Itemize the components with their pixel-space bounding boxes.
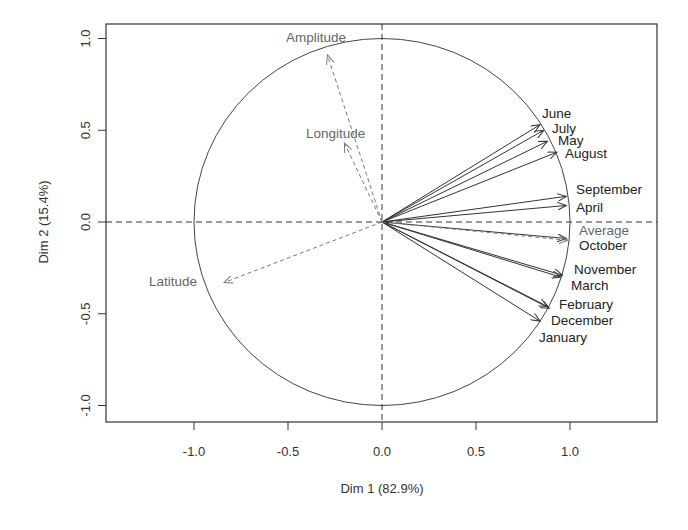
- y-tick-label: 0.0: [78, 213, 93, 231]
- variable-arrow-august: [382, 152, 557, 222]
- variable-arrow-july: [382, 130, 544, 222]
- variable-label-longitude: Longitude: [306, 126, 365, 141]
- supplementary-arrow-latitude: [224, 222, 382, 283]
- y-axis: -1.0-0.50.00.51.0: [78, 29, 106, 416]
- supplementary-arrow-longitude: [344, 143, 382, 222]
- x-tick-label: -0.5: [277, 444, 299, 459]
- x-tick-label: 1.0: [561, 444, 579, 459]
- variable-label-latitude: Latitude: [149, 274, 197, 289]
- variable-label-march: March: [571, 278, 609, 293]
- y-tick-label: 0.5: [78, 121, 93, 139]
- variable-arrow-september: [382, 196, 566, 222]
- variable-label-october: October: [579, 238, 628, 253]
- x-tick-label: -1.0: [183, 444, 205, 459]
- supplementary-arrow-average: [382, 222, 568, 240]
- variable-label-june: June: [542, 106, 571, 121]
- x-axis: -1.0-0.50.00.51.0: [183, 422, 579, 459]
- y-axis-title: Dim 2 (15.4%): [36, 180, 51, 263]
- variable-arrow-january: [382, 222, 540, 321]
- variable-arrow-june: [382, 125, 540, 222]
- variable-label-amplitude: Amplitude: [286, 30, 346, 45]
- x-tick-label: 0.5: [467, 444, 485, 459]
- x-axis-title: Dim 1 (82.9%): [340, 481, 423, 496]
- variable-label-january: January: [539, 330, 587, 345]
- variable-label-april: April: [576, 200, 603, 215]
- y-tick-label: -1.0: [78, 394, 93, 416]
- variable-label-february: February: [559, 297, 613, 312]
- variable-label-average: Average: [579, 223, 629, 238]
- x-tick-label: 0.0: [373, 444, 391, 459]
- y-tick-label: -0.5: [78, 303, 93, 325]
- variable-arrows: [224, 55, 568, 321]
- variable-label-december: December: [551, 313, 614, 328]
- variable-label-november: November: [574, 262, 637, 277]
- variable-labels: JuneJulyMayAugustSeptemberAprilAverageOc…: [149, 30, 643, 345]
- variable-label-august: August: [565, 146, 607, 161]
- y-tick-label: 1.0: [78, 29, 93, 47]
- variable-label-september: September: [576, 182, 643, 197]
- pca-correlation-circle-chart: -1.0-0.50.00.51.0 -1.0-0.50.00.51.0 June…: [0, 0, 688, 530]
- plot-frame: [106, 24, 657, 422]
